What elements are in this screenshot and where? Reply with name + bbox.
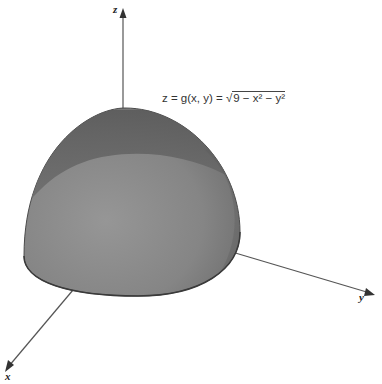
z-axis <box>120 8 127 108</box>
y-arrow-icon <box>364 288 375 296</box>
equation-radicand: 9 − x² − y² <box>232 91 285 104</box>
hemisphere-surface <box>20 108 260 300</box>
x-axis-label: x <box>5 370 11 382</box>
diagram-canvas <box>0 0 382 384</box>
x-axis <box>5 290 73 372</box>
surface-equation: z = g(x, y) = √9 − x² − y² <box>162 92 285 104</box>
z-axis-label: z <box>113 3 117 15</box>
y-axis-label: y <box>359 291 364 303</box>
z-arrow-icon <box>120 8 127 18</box>
y-axis <box>232 252 375 296</box>
hemisphere-diagram: z y x z = g(x, y) = √9 − x² − y² <box>0 0 382 384</box>
equation-lhs: z = g(x, y) = <box>162 92 226 104</box>
